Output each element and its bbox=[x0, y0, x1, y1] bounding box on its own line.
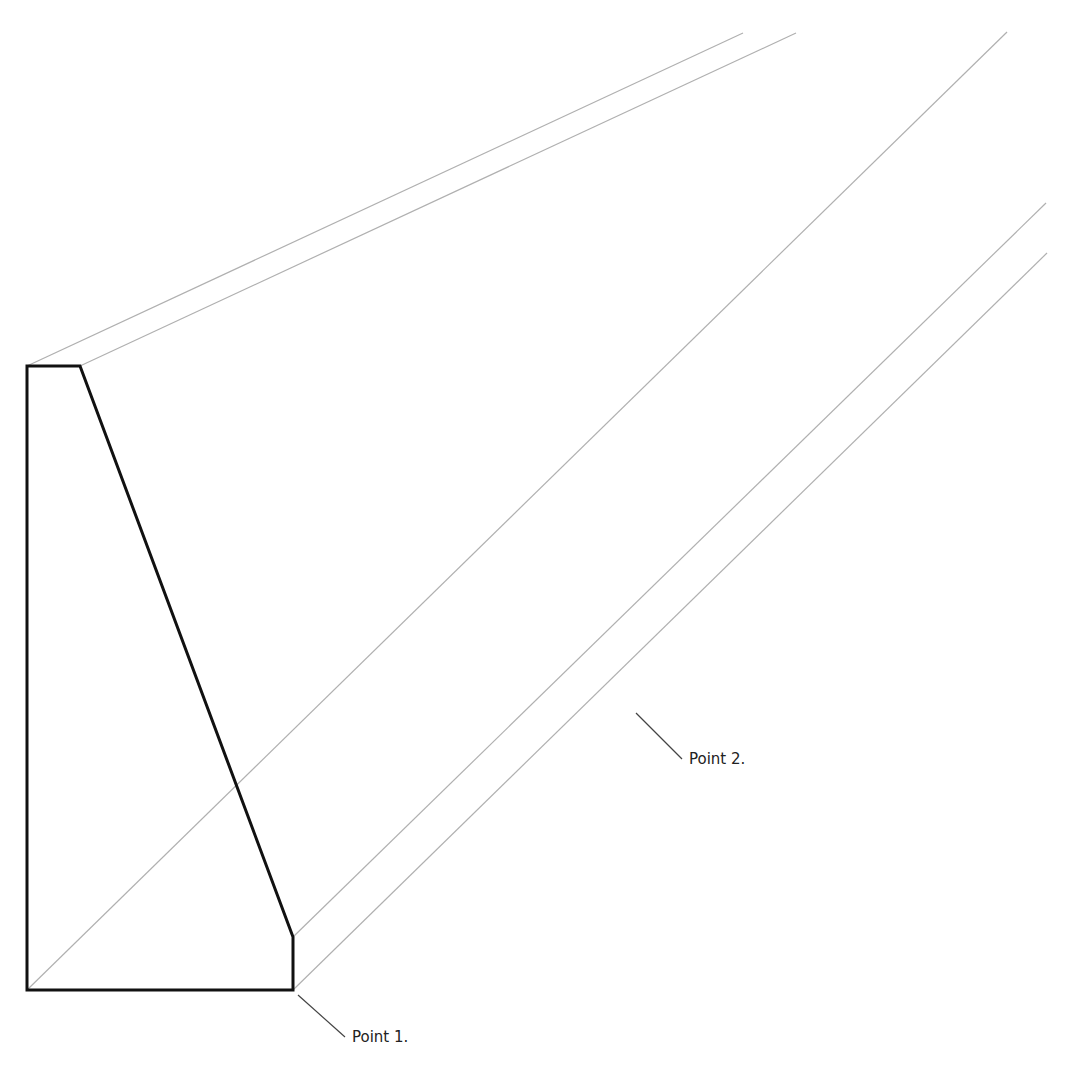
profile-outline bbox=[27, 366, 293, 990]
extrusion-line-2 bbox=[80, 33, 796, 366]
point1-leader-line bbox=[298, 995, 345, 1037]
extrusion-line-1 bbox=[27, 33, 743, 366]
point-2-label: Point 2. bbox=[689, 750, 745, 768]
extrusion-line-4 bbox=[293, 203, 1046, 937]
extrusion-line-5 bbox=[293, 253, 1047, 990]
profile-drawing bbox=[0, 0, 1074, 1079]
extrusion-line-3 bbox=[27, 32, 1007, 990]
profile-shape bbox=[27, 366, 293, 990]
leader-lines bbox=[298, 713, 682, 1037]
point-1-label: Point 1. bbox=[352, 1028, 408, 1046]
point2-leader-line bbox=[636, 713, 682, 759]
extrusion-lines bbox=[27, 32, 1047, 990]
